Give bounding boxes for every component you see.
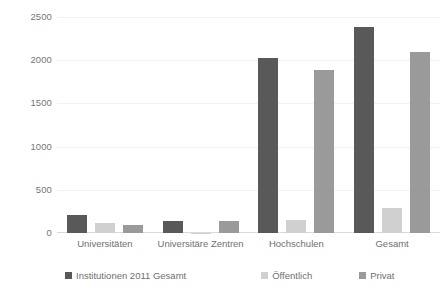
y-axis: 25002000150010005000 [0, 17, 52, 233]
bar[interactable] [123, 225, 143, 233]
y-axis-tick-label: 1500 [6, 98, 52, 108]
bar-group [153, 17, 249, 233]
legend-swatch-icon [359, 272, 366, 279]
legend-label: Institutionen 2011 Gesamt [76, 270, 186, 281]
x-axis-tick-label: Gesamt [344, 238, 440, 250]
y-axis-tick-label: 1000 [6, 142, 52, 152]
bar-groups [57, 17, 440, 233]
bar-slot [191, 17, 211, 233]
bar-group [344, 17, 440, 233]
bar-slot [354, 17, 374, 233]
legend-item[interactable]: Institutionen 2011 Gesamt [65, 270, 186, 281]
bar[interactable] [382, 208, 402, 233]
bar-slot [219, 17, 239, 233]
chart-legend: Institutionen 2011 GesamtÖffentlichPriva… [57, 270, 440, 281]
x-axis-labels: UniversitätenUniversitäre ZentrenHochsch… [57, 238, 440, 250]
x-axis-tick-label: Universitäre Zentren [153, 238, 249, 250]
bar[interactable] [163, 221, 183, 233]
bar-slot [67, 17, 87, 233]
legend-item[interactable]: Öffentlich [261, 270, 312, 281]
y-axis-tick-label: 2500 [6, 12, 52, 22]
legend-label: Öffentlich [272, 270, 312, 281]
y-axis-tick-label: 0 [6, 228, 52, 238]
bar-group [57, 17, 153, 233]
bar-slot [410, 17, 430, 233]
bar-chart: 25002000150010005000 UniversitätenUniver… [0, 0, 446, 295]
bar-slot [163, 17, 183, 233]
x-axis-tick-label: Universitäten [57, 238, 153, 250]
legend-label: Privat [370, 270, 394, 281]
bar-slot [123, 17, 143, 233]
bar[interactable] [286, 220, 306, 233]
bar[interactable] [67, 215, 87, 233]
bar-slot [95, 17, 115, 233]
bar[interactable] [354, 27, 374, 233]
legend-swatch-icon [261, 272, 268, 279]
legend-swatch-icon [65, 272, 72, 279]
bar-group [249, 17, 345, 233]
bar-slot [286, 17, 306, 233]
bar-slot [382, 17, 402, 233]
bar-slot [314, 17, 334, 233]
bar[interactable] [258, 58, 278, 233]
bar[interactable] [314, 70, 334, 233]
y-axis-tick-label: 500 [6, 185, 52, 195]
bar[interactable] [219, 221, 239, 233]
x-axis-tick-label: Hochschulen [249, 238, 345, 250]
legend-item[interactable]: Privat [359, 270, 394, 281]
bar-slot [258, 17, 278, 233]
bar[interactable] [95, 223, 115, 233]
bar[interactable] [410, 52, 430, 233]
y-axis-tick-label: 2000 [6, 55, 52, 65]
